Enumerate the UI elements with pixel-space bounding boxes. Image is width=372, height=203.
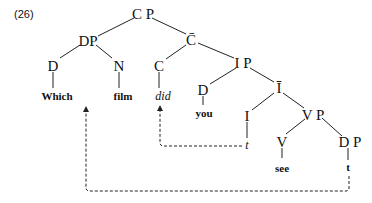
tree-terminals: Which film did you t see t [41,89,350,174]
node-vp: V P [302,107,325,123]
arrowhead-icon [157,105,163,111]
example-number: (26) [14,8,34,20]
node-i-bar: Ī [277,80,282,96]
syntax-tree-diagram: (26) C P DP C̄ D N C I P [0,0,372,203]
tree-nodes: C P DP C̄ D N C I P D Ī I V P V D P [48,6,362,150]
node-cp: C P [132,6,154,22]
word-i-trace: t [245,138,249,152]
word-which: Which [41,90,72,102]
word-dp-trace: t [346,161,350,173]
word-see: see [275,162,289,174]
node-v: V [277,134,288,150]
node-c-bar: C̄ [186,32,196,48]
node-n-film: N [114,58,125,74]
node-c-did: C [154,58,164,74]
node-d-you: D [198,82,209,98]
node-dp-object: D P [339,134,362,150]
word-did: did [155,89,171,103]
node-dp: DP [78,33,97,49]
node-i: I [245,108,250,124]
word-you: you [195,107,212,119]
word-film: film [114,90,133,102]
node-ip: I P [234,55,251,71]
node-d-which: D [48,58,59,74]
arrowhead-icon [83,106,89,112]
